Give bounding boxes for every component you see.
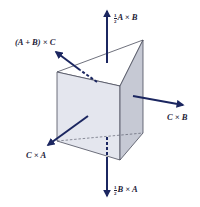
label-half-a-cross-b: 1 2 A × B [114, 13, 137, 24]
label-text: (A + B) × C [15, 37, 55, 47]
label-c-cross-a: C × A [26, 151, 46, 160]
fraction-one-half: 1 2 [114, 13, 117, 24]
label-half-b-cross-a: 1 2 B × A [114, 185, 138, 196]
fraction-one-half: 1 2 [114, 185, 117, 196]
label-text: C × B [167, 112, 187, 122]
label-text: C × A [26, 150, 46, 160]
fraction-denominator: 2 [114, 190, 117, 196]
prism-diagram [0, 0, 200, 207]
label-text: A × B [118, 12, 138, 22]
fraction-numerator: 1 [114, 13, 117, 18]
label-a-plus-b-cross-c: (A + B) × C [15, 38, 55, 47]
label-text: B × A [118, 184, 138, 194]
prism-front-face [57, 72, 120, 160]
label-c-cross-b: C × B [167, 113, 187, 122]
fraction-numerator: 1 [114, 185, 117, 190]
fraction-denominator: 2 [114, 18, 117, 24]
arrow-a-plus-b-cross-c [56, 52, 80, 70]
